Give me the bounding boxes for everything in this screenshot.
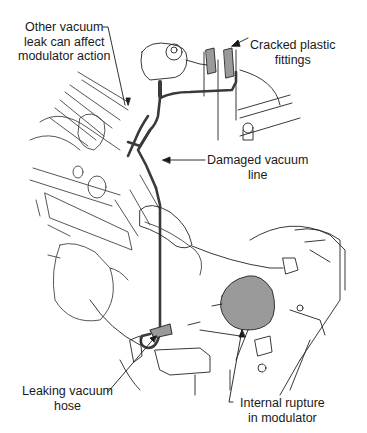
modulator — [200, 276, 275, 360]
callout-line: fittings — [250, 53, 335, 68]
callout-line: Damaged vacuum — [207, 153, 308, 168]
callout-other-vacuum-leak: Other vacuum leak can affect modulator a… — [18, 20, 110, 64]
callout-line: hose — [22, 399, 113, 414]
leader-leaking-hose — [108, 336, 156, 392]
callout-line: Leaking vacuum — [22, 384, 113, 399]
callout-cracked-fittings: Cracked plastic fittings — [250, 38, 335, 67]
engine-block — [30, 72, 202, 321]
vacuum-line — [128, 72, 236, 348]
leaking-hose-shape — [150, 324, 172, 338]
callout-line: Cracked plastic — [250, 38, 335, 53]
leader-internal-rupture — [229, 330, 242, 402]
callout-internal-rupture: Internal rupture in modulator — [240, 396, 325, 425]
callout-damaged-vacuum-line: Damaged vacuum line — [207, 153, 308, 182]
callout-line: in modulator — [240, 411, 325, 426]
callout-line: Other vacuum — [18, 20, 110, 35]
callout-line: leak can affect — [18, 35, 110, 50]
callout-line: modulator action — [18, 49, 110, 64]
callout-line: Internal rupture — [240, 396, 325, 411]
callout-line: line — [207, 168, 308, 183]
callout-leaking-vacuum-hose: Leaking vacuum hose — [22, 384, 113, 413]
